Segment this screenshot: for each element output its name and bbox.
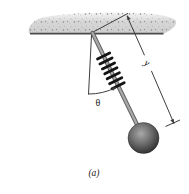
vertical-reference-line: [89, 35, 92, 95]
ceiling-band-texture: [29, 13, 177, 34]
ceiling: [29, 13, 177, 34]
dimension-line-lower: [151, 71, 174, 124]
pendulum-spring-figure: θ y (a): [0, 0, 189, 194]
angle-theta-label: θ: [96, 97, 101, 108]
length-y-label: y: [142, 56, 153, 69]
figure-svg: θ y (a): [0, 0, 189, 194]
arc-arrowhead: [112, 87, 117, 90]
figure-caption: (a): [88, 168, 99, 179]
pendulum-ball: [128, 123, 159, 154]
spring-coil: [98, 53, 125, 89]
